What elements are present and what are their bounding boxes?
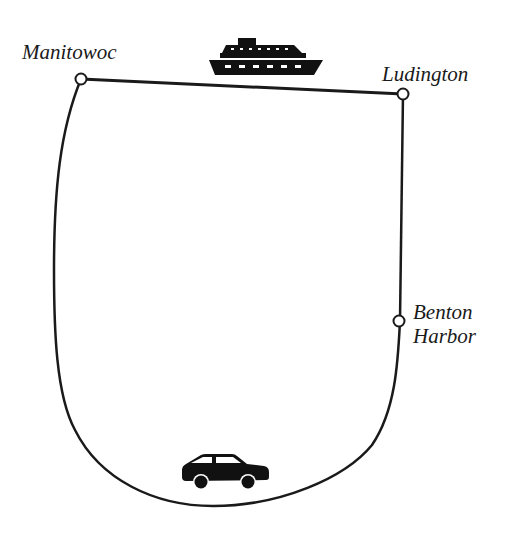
ludington-label: Ludington — [382, 62, 468, 86]
ludington-node — [398, 89, 409, 100]
benton-harbor-label-line2: Harbor — [413, 324, 476, 348]
car-icon — [182, 454, 269, 490]
ferry-route-line — [81, 79, 403, 94]
road-ludington-benton-line — [400, 94, 403, 321]
benton-harbor-label: Benton Harbor — [413, 300, 476, 348]
benton-harbor-label-line1: Benton — [413, 300, 476, 324]
road-loop-curve — [54, 79, 400, 506]
benton-harbor-node — [394, 316, 405, 327]
manitowoc-node — [76, 74, 87, 85]
manitowoc-label: Manitowoc — [22, 40, 117, 64]
ship-icon — [209, 38, 323, 75]
